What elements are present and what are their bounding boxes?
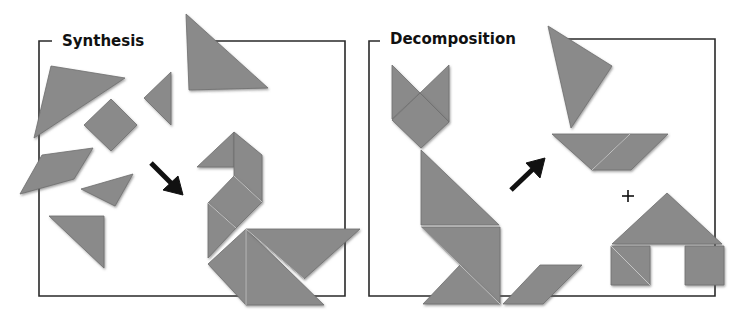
large-triangle-top-piece xyxy=(186,14,268,90)
house-figure xyxy=(611,193,724,285)
house-right-wall xyxy=(685,246,724,285)
square-piece xyxy=(84,99,137,151)
swan-head xyxy=(197,132,234,167)
diagram-stage: Synthesis Decomposition xyxy=(0,0,739,312)
decomposition-title: Decomposition xyxy=(384,30,522,48)
parallelogram-piece xyxy=(20,148,93,194)
synthesis-panel xyxy=(20,14,360,305)
medium-triangle-piece xyxy=(49,216,104,268)
cat-body-upper xyxy=(421,150,499,225)
decomposition-arrow-icon xyxy=(511,158,545,190)
swan-figure xyxy=(197,132,360,305)
synthesis-arrow-icon xyxy=(151,163,183,195)
decomposition-panel xyxy=(369,26,724,304)
synthesis-title: Synthesis xyxy=(56,32,150,50)
sailboat-figure xyxy=(548,26,668,170)
small-triangle-piece-2 xyxy=(81,174,133,206)
sailboat-sail xyxy=(548,26,612,128)
cat-tail xyxy=(503,265,582,304)
small-triangle-piece xyxy=(144,72,171,125)
cat-figure xyxy=(392,65,582,304)
plus-icon xyxy=(622,190,634,202)
